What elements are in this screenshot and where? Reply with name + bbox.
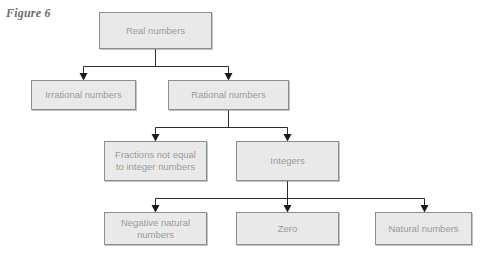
node-zero-label: Zero: [278, 223, 298, 235]
node-negative-natural-numbers-label-line1: Negative natural: [121, 217, 190, 229]
node-fractions-not-equal-to-integer-numbers[interactable]: Fractions not equal to integer numbers: [104, 141, 207, 181]
node-rational-numbers[interactable]: Rational numbers: [168, 80, 289, 110]
node-fractions-label-line2: to integer numbers: [116, 161, 195, 173]
figure-diagram-canvas: Figure 6 Real numbers Irrational numbers…: [0, 0, 481, 255]
node-negative-natural-numbers[interactable]: Negative natural numbers: [104, 212, 207, 245]
node-fractions-label-line1: Fractions not equal: [115, 149, 196, 161]
node-integers[interactable]: Integers: [236, 141, 339, 181]
node-negative-natural-numbers-label-line2: numbers: [137, 229, 174, 241]
node-real-numbers-label: Real numbers: [126, 25, 185, 37]
node-natural-numbers-label: Natural numbers: [388, 223, 458, 235]
node-irrational-numbers[interactable]: Irrational numbers: [31, 80, 136, 110]
node-irrational-numbers-label: Irrational numbers: [45, 89, 122, 101]
node-natural-numbers[interactable]: Natural numbers: [375, 212, 472, 245]
figure-label: Figure 6: [6, 6, 51, 21]
node-integers-label: Integers: [270, 155, 304, 167]
node-rational-numbers-label: Rational numbers: [191, 89, 265, 101]
node-real-numbers[interactable]: Real numbers: [99, 12, 212, 49]
node-zero[interactable]: Zero: [236, 212, 339, 245]
